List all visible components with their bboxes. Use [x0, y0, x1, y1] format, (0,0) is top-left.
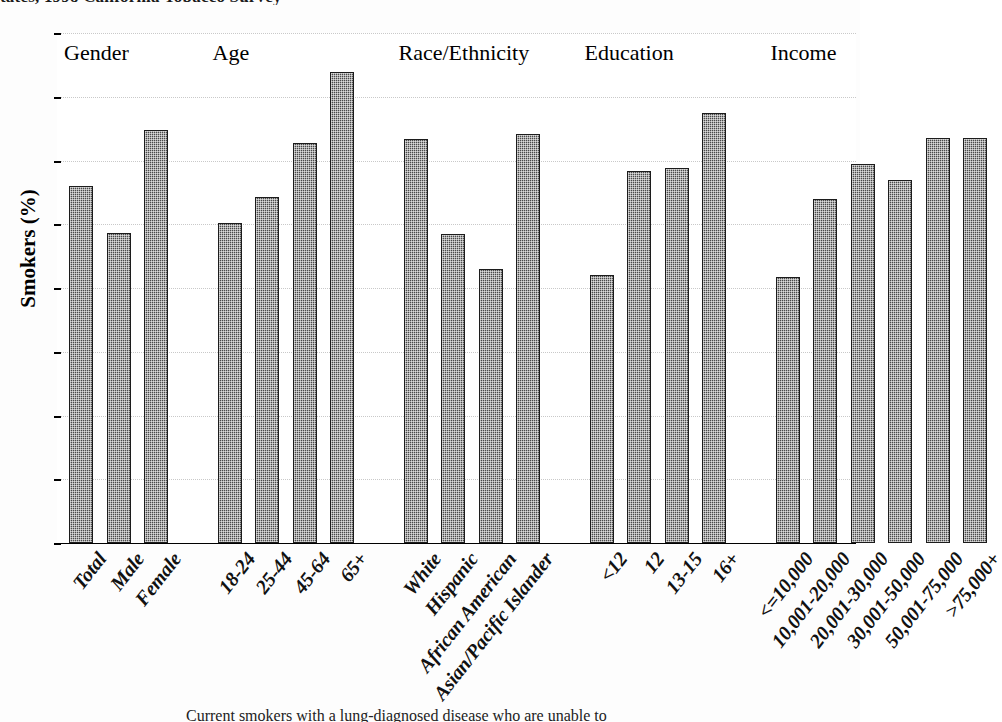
group-header: Gender	[64, 40, 129, 66]
x-category-label: 45-64	[288, 548, 334, 598]
y-tick-mark	[54, 33, 61, 35]
y-tick-mark	[54, 288, 61, 290]
group-header: Education	[585, 40, 674, 66]
bar	[255, 197, 279, 543]
y-tick-mark	[54, 97, 61, 99]
bar	[776, 277, 800, 543]
y-tick-mark	[54, 543, 61, 545]
bar	[627, 171, 651, 543]
y-tick-mark	[54, 352, 61, 354]
x-category-label: Total	[68, 548, 111, 594]
bar	[69, 186, 93, 543]
bar	[926, 138, 950, 543]
bar	[479, 269, 503, 543]
y-axis-title: Smokers (%)	[16, 159, 41, 339]
x-category-label: 12	[639, 548, 669, 578]
y-tick-mark	[54, 479, 61, 481]
bar	[330, 72, 354, 543]
bar	[888, 180, 912, 543]
bar	[293, 143, 317, 543]
plot-area	[57, 33, 856, 543]
y-tick-mark	[54, 161, 61, 163]
y-tick-mark	[54, 224, 61, 226]
bar	[404, 139, 428, 543]
y-tick-mark	[54, 416, 61, 418]
x-category-label: 13-15	[660, 548, 706, 598]
bar	[851, 164, 875, 543]
x-category-label: 16+	[707, 548, 744, 586]
x-category-label: <12	[595, 548, 632, 586]
bar	[963, 138, 987, 543]
bar	[813, 199, 837, 543]
bar	[590, 275, 614, 543]
bar	[665, 168, 689, 543]
bar	[107, 233, 131, 543]
gridline	[57, 97, 856, 99]
gridline	[57, 33, 856, 35]
group-header: Income	[771, 40, 837, 66]
bar	[441, 234, 465, 543]
bar	[218, 223, 242, 543]
bar	[516, 134, 540, 543]
group-header: Age	[213, 40, 250, 66]
gridline	[57, 161, 856, 163]
x-category-label: 65+	[335, 548, 372, 586]
group-header: Race/Ethnicity	[399, 40, 530, 66]
bar	[702, 113, 726, 543]
figure-caption: Current smokers with a lung-diagnosed di…	[186, 707, 860, 722]
x-category-label: 25-44	[251, 548, 297, 598]
x-category-label: 18-24	[213, 548, 259, 598]
figure-title: tates, 1998 California Tobacco Survey	[0, 0, 860, 5]
bar	[144, 130, 168, 543]
gridline	[57, 224, 856, 226]
